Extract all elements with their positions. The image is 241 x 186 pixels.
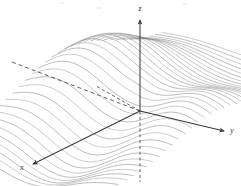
surface-trace [117,37,241,95]
y-axis-label: y [229,126,234,135]
x-axis-positive-segment [33,111,140,164]
surface-trace [0,112,166,162]
surface-plot-canvas: x y z [0,0,241,186]
surface-trace [26,77,198,123]
z-axis-label: z [138,4,142,13]
y-axis-negative-segment [96,86,140,111]
surface-trace [162,32,241,76]
surface-trace [0,140,127,185]
x-axis-label: x [19,163,24,172]
x-axis-negative-segment [12,62,140,111]
surface-trace [0,132,140,181]
figure-root: x y z [0,0,241,186]
scan-artifact [182,3,187,5]
surface-trace [97,34,241,100]
scan-artifact [96,7,102,9]
scan-artifact [60,2,64,4]
